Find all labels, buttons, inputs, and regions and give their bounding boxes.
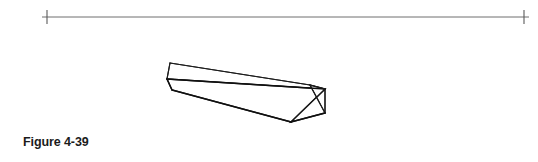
figure-page: Figure 4-39 [0,0,538,162]
figure-caption: Figure 4-39 [23,134,89,150]
